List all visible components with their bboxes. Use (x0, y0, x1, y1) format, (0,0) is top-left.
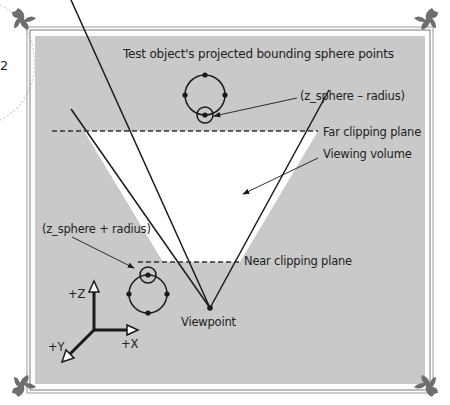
label-near-clipping-plane: Near clipping plane (244, 254, 352, 268)
figure-title: Test object's projected bounding sphere … (123, 47, 394, 61)
viewpoint-dot (207, 305, 213, 311)
axis-label-y: +Y (48, 340, 64, 354)
label-viewing-volume: Viewing volume (323, 147, 412, 161)
label-far-minus-radius: (z_sphere – radius) (300, 89, 405, 103)
axis-label-z: +Z (68, 287, 85, 301)
diagram-figure: 2 Test object's projected bounding spher… (0, 0, 450, 405)
page-number-fragment: 2 (0, 58, 8, 73)
label-far-clipping-plane: Far clipping plane (323, 125, 421, 139)
label-near-plus-radius: (z_sphere + radius) (42, 222, 151, 236)
label-viewpoint: Viewpoint (181, 315, 236, 329)
axis-label-x: +X (121, 337, 138, 351)
